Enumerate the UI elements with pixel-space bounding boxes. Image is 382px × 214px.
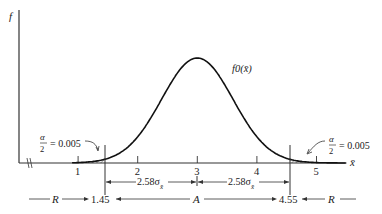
y-axis-label: f xyxy=(9,10,14,22)
svg-text:A: A xyxy=(192,193,200,205)
svg-text:α: α xyxy=(40,132,45,142)
density-curve xyxy=(72,58,346,163)
x-tick-label: 5 xyxy=(314,166,319,177)
svg-text:2: 2 xyxy=(329,146,333,156)
right-alpha-label: α 2 = 0.005 xyxy=(307,134,370,156)
x-tick-label: 4 xyxy=(254,166,260,177)
svg-text:2.58σ: 2.58σ xyxy=(228,176,252,187)
svg-text:2: 2 xyxy=(40,144,44,154)
svg-text:R: R xyxy=(51,193,59,205)
region-row: R 1.45 A 4.55 R xyxy=(29,193,356,205)
svg-text:1.45: 1.45 xyxy=(91,194,109,205)
normal-distribution-chart: f x̄ 12345 f0(x̄) α 2 = 0.005 α 2 = 0.00… xyxy=(0,0,382,214)
svg-text:2.58σ: 2.58σ xyxy=(137,176,161,187)
svg-text:α: α xyxy=(329,134,334,144)
sigma-dimension-right: 2.58σ x̄ xyxy=(198,176,289,191)
sigma-dimension-left: 2.58σ x̄ xyxy=(106,176,196,191)
x-tick-label: 3 xyxy=(194,166,199,177)
svg-text:x̄: x̄ xyxy=(250,183,255,191)
svg-text:x̄: x̄ xyxy=(159,183,164,191)
svg-text:R: R xyxy=(327,193,335,205)
x-tick-label: 1 xyxy=(75,166,80,177)
svg-text:= 0.005: = 0.005 xyxy=(50,138,81,149)
curve-label: f0(x̄) xyxy=(232,63,252,75)
svg-text:= 0.005: = 0.005 xyxy=(339,140,370,151)
svg-text:4.55: 4.55 xyxy=(279,194,297,205)
x-ticks: 12345 xyxy=(75,156,319,177)
x-axis-label: x̄ xyxy=(349,156,355,168)
left-alpha-label: α 2 = 0.005 xyxy=(40,132,99,154)
